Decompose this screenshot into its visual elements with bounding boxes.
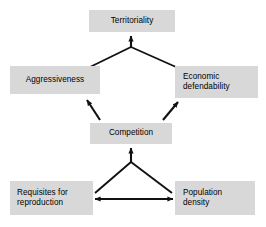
node-economic-defendability: Economic defendability: [175, 66, 258, 98]
edge-competition-to-aggressiveness: [87, 100, 100, 120]
node-aggressiveness-label: Aggressiveness: [24, 75, 87, 86]
node-territoriality-label: Territoriality: [109, 16, 156, 27]
node-economic-defendability-label: Economic defendability: [181, 72, 232, 93]
node-requisites-for-reproduction: Requisites for reproduction: [10, 181, 93, 215]
edge-requisites-to-apex: [95, 162, 131, 193]
edge-aggressiveness-to-apex: [90, 47, 131, 67]
edge-population-density-to-apex: [131, 162, 172, 193]
edge-economic-defendability-to-apex: [131, 47, 176, 67]
node-population-density-label: Population density: [181, 188, 224, 209]
node-competition-label: Competition: [107, 128, 155, 139]
node-competition: Competition: [90, 123, 172, 144]
diagram-canvas: Territoriality Aggressiveness Economic d…: [0, 0, 266, 227]
node-requisites-for-reproduction-label: Requisites for reproduction: [15, 188, 70, 209]
node-aggressiveness: Aggressiveness: [10, 66, 100, 94]
edge-competition-to-economic-defendability: [163, 102, 178, 120]
node-territoriality: Territoriality: [89, 10, 175, 32]
node-population-density: Population density: [175, 181, 255, 215]
